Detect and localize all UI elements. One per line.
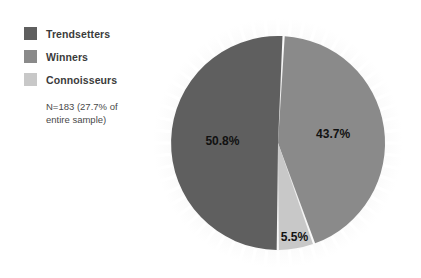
legend-swatch-trendsetters (24, 27, 37, 40)
legend-swatch-connoisseurs (24, 73, 37, 86)
slice-label-winners: 43.7% (316, 127, 350, 141)
legend-label-winners: Winners (46, 51, 88, 63)
slice-label-connoisseurs: 5.5% (281, 230, 309, 244)
legend-swatch-winners (24, 50, 37, 63)
pie-plot-area: 43.7%5.5%50.8% (150, 15, 406, 271)
legend-label-connoisseurs: Connoisseurs (46, 74, 117, 86)
slice-label-trendsetters: 50.8% (205, 134, 239, 148)
pie-svg: 43.7%5.5%50.8% (150, 15, 406, 271)
legend-label-trendsetters: Trendsetters (46, 28, 110, 40)
pie-chart-figure: Trendsetters Winners Connoisseurs N=183 … (0, 0, 421, 278)
